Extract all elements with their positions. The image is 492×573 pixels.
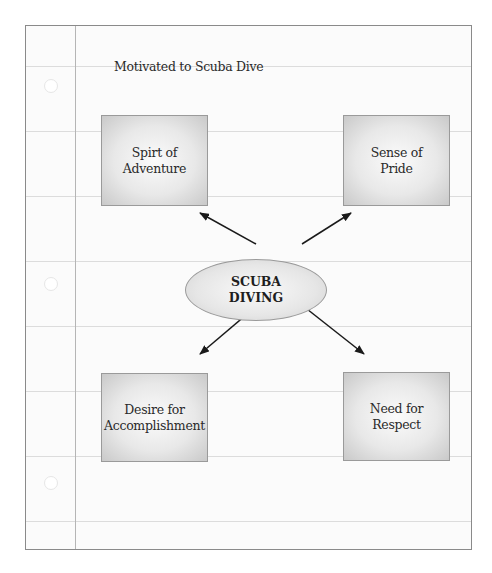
node-label: Sense of Pride xyxy=(371,145,423,177)
notebook-paper: Motivated to Scuba Dive Spirt of Adventu… xyxy=(25,25,472,550)
node-label: Need for Respect xyxy=(370,401,423,433)
node-need-for-respect: Need for Respect xyxy=(343,372,450,461)
node-sense-of-pride: Sense of Pride xyxy=(343,115,450,206)
margin-line xyxy=(75,26,76,549)
arrow-to-top-right xyxy=(302,213,351,244)
punch-hole-icon xyxy=(44,277,58,291)
center-node-scuba-diving: SCUBA DIVING xyxy=(185,259,327,321)
node-desire-for-accomplishment: Desire for Accomplishment xyxy=(101,373,208,462)
diagram-title: Motivated to Scuba Dive xyxy=(114,59,263,74)
node-label: Desire for Accomplishment xyxy=(104,402,205,434)
node-label: Spirt of Adventure xyxy=(123,145,186,177)
punch-hole-icon xyxy=(44,79,58,93)
node-spirit-of-adventure: Spirt of Adventure xyxy=(101,115,208,206)
center-node-label: SCUBA DIVING xyxy=(229,274,283,306)
arrow-to-top-left xyxy=(200,213,256,244)
punch-hole-icon xyxy=(44,476,58,490)
